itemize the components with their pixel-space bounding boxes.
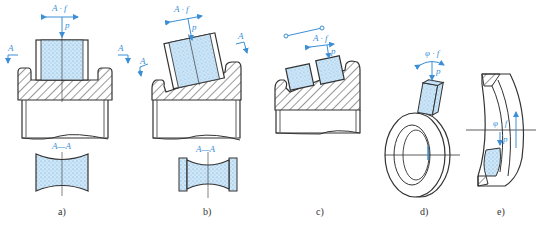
caption-d: d): [420, 206, 428, 217]
motion-label-a: A · f: [52, 3, 67, 13]
motion-label-e: φ · f: [493, 118, 507, 128]
section-mark-left-a: A: [8, 43, 14, 53]
honing-stone: [286, 64, 314, 91]
honing-stone: [484, 148, 501, 176]
pressure-label-e: p: [503, 134, 508, 144]
pressure-label-b: p: [192, 22, 197, 32]
motion-label-d: φ · f: [425, 48, 439, 58]
honing-stone: [316, 56, 344, 84]
motion-label-c: A · f: [313, 33, 328, 43]
panel-a: [8, 17, 128, 196]
caption-e: e): [497, 206, 505, 217]
caption-c: c): [316, 206, 324, 217]
motion-label-b: A · f: [174, 4, 189, 14]
section-mark-left-b: A: [140, 56, 146, 66]
pressure-label-a: p: [65, 20, 70, 30]
caption-b: b): [203, 206, 211, 217]
section-mark-right-b: A: [238, 31, 244, 41]
panel-d: [385, 61, 460, 197]
section-title-b: A—A: [196, 144, 215, 154]
pressure-label-c: p: [331, 46, 336, 56]
section-mark-right-a: A: [118, 43, 124, 53]
section-title-a: A—A: [52, 141, 71, 151]
panel-e: [466, 74, 536, 186]
pressure-label-d: p: [436, 66, 441, 76]
panel-b: [140, 16, 247, 198]
superfinishing-diagram: [0, 0, 538, 228]
caption-a: a): [58, 206, 66, 217]
